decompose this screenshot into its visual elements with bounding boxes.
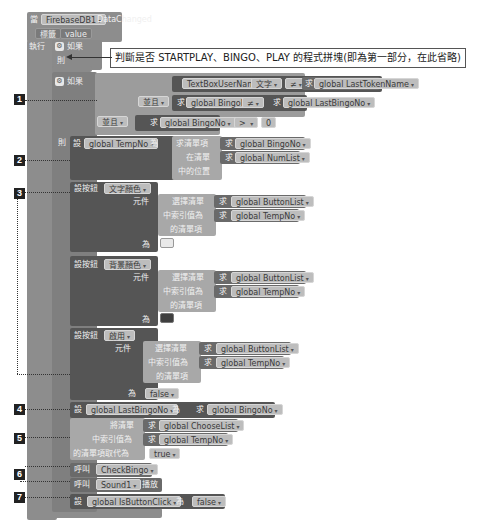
- select-list-label: 選擇清單: [172, 196, 204, 207]
- chevron-down-icon: ▾: [306, 275, 309, 282]
- get-label: 求: [219, 286, 227, 297]
- var-dropdown[interactable]: global ButtonList▾: [231, 196, 314, 207]
- op-dropdown[interactable]: > ▾: [234, 117, 258, 128]
- var-dropdown[interactable]: global LastBingoNo▾: [86, 404, 178, 415]
- leader-line: [20, 481, 70, 482]
- component-label: 元件: [133, 272, 149, 283]
- select-list-label: 選擇清單: [172, 272, 204, 283]
- chevron-down-icon: ▾: [225, 437, 228, 444]
- leader-line: [25, 466, 70, 467]
- chevron-down-icon: ▾: [411, 81, 414, 88]
- get-label: 求: [204, 343, 212, 354]
- prop-dropdown[interactable]: 文字顏色▾: [104, 183, 151, 194]
- var-dropdown[interactable]: global NumList▾: [235, 152, 310, 163]
- index-of-label: 求清單項: [176, 138, 208, 149]
- var-dropdown[interactable]: global TempNo▾: [216, 357, 290, 368]
- false-dropdown[interactable]: false▾: [192, 496, 226, 507]
- get-label: 求: [219, 196, 227, 207]
- method-label: 播放: [142, 479, 158, 490]
- marker-3: 3: [14, 188, 25, 199]
- get-label: 求: [225, 152, 233, 163]
- false-dropdown[interactable]: false▾: [145, 388, 179, 399]
- leader-line: [25, 160, 70, 161]
- var-dropdown[interactable]: global ButtonList▾: [216, 343, 299, 354]
- prop-dropdown[interactable]: 背景顏色▾: [104, 259, 151, 270]
- chevron-down-icon: ▾: [302, 155, 305, 162]
- sound-dropdown[interactable]: Sound1▾: [96, 479, 141, 490]
- event-when-label: 當: [30, 14, 38, 25]
- marker-5: 5: [14, 433, 25, 444]
- list-item-label: 的清單項: [156, 371, 188, 382]
- bracket-line: [17, 199, 18, 374]
- get-label: 求: [196, 404, 204, 415]
- chevron-down-icon: ▾: [171, 391, 174, 398]
- true-dropdown[interactable]: true▾: [149, 448, 180, 459]
- prop-dropdown[interactable]: 文字▾: [251, 78, 282, 89]
- prop-dropdown[interactable]: 啟用▾: [104, 330, 135, 341]
- event-name: DataChanged: [97, 14, 152, 25]
- var-dropdown[interactable]: global ButtonList▾: [231, 272, 314, 283]
- leader-line: [25, 497, 70, 498]
- leader-line: [25, 437, 70, 438]
- gear-icon[interactable]: ⚙: [55, 42, 64, 51]
- var-dropdown[interactable]: global BingoNo▾: [207, 404, 283, 415]
- chevron-down-icon: ▾: [150, 467, 153, 474]
- call-label: 呼叫: [74, 479, 90, 490]
- if1-label: 如果: [67, 41, 83, 52]
- if1-then: 則: [57, 55, 65, 66]
- leader-line: [25, 409, 70, 410]
- get-label: 求: [177, 97, 185, 108]
- param-tag[interactable]: 標籤: [35, 28, 61, 39]
- and-dropdown-2[interactable]: 並且▾: [97, 116, 128, 127]
- get-label: 求: [305, 78, 313, 89]
- var-dropdown[interactable]: global BingoNo▾: [235, 138, 311, 149]
- index-label: 中索引值為: [163, 286, 203, 297]
- var-dropdown[interactable]: global LastTokenName▾: [314, 78, 419, 89]
- leader-line: [25, 100, 97, 101]
- chevron-down-icon: ▾: [291, 346, 294, 353]
- and-dropdown-1[interactable]: 並且▾: [138, 96, 169, 107]
- index-label: 中索引值為: [163, 210, 203, 221]
- component-label: 元件: [115, 343, 131, 354]
- var-dropdown[interactable]: global TempNo▾: [159, 434, 233, 445]
- var-dropdown[interactable]: global IsButtonClick▾: [87, 496, 181, 507]
- chevron-down-icon: ▾: [274, 81, 277, 88]
- var-dropdown[interactable]: global TempNo▾: [84, 138, 158, 149]
- get-label: 求: [219, 272, 227, 283]
- set-label: 設: [74, 404, 82, 415]
- chevron-down-icon: ▾: [306, 199, 309, 206]
- op-dropdown[interactable]: ≠▾: [242, 97, 264, 108]
- chevron-down-icon: ▾: [297, 289, 300, 296]
- var-dropdown[interactable]: global LastBingoNo▾: [283, 97, 375, 108]
- marker-1: 1: [14, 94, 25, 105]
- set-button-label: 設按鈕: [74, 259, 98, 270]
- var-dropdown[interactable]: global TempNo▾: [231, 210, 305, 221]
- bracket-line: [17, 374, 70, 375]
- set-button-label: 設按鈕: [74, 183, 98, 194]
- get-label: 求: [225, 138, 233, 149]
- list-item-label: 的清單項: [170, 224, 202, 235]
- color-swatch-white[interactable]: [160, 238, 174, 248]
- chevron-down-icon: ▾: [297, 213, 300, 220]
- gear-icon[interactable]: ⚙: [55, 77, 64, 86]
- number-value[interactable]: 0: [261, 117, 276, 128]
- call-label: 呼叫: [74, 464, 90, 475]
- chevron-down-icon: ▾: [256, 100, 259, 107]
- index-label: 中索引值為: [92, 434, 132, 445]
- var-dropdown[interactable]: global ChooseList▾: [159, 420, 244, 431]
- var-dropdown[interactable]: global BingoNo▾: [160, 117, 236, 128]
- to-label: 為: [172, 404, 180, 415]
- to-label: 為: [176, 496, 184, 507]
- if2-label: 如果: [67, 76, 83, 87]
- param-value[interactable]: value: [60, 28, 92, 39]
- set-button-label: 設按鈕: [74, 330, 98, 341]
- component-label: 元件: [133, 196, 149, 207]
- color-swatch-dark[interactable]: [160, 313, 174, 323]
- annotation-callout: 判斷是否 STARTPLAY、BINGO、PLAY 的程式拼塊(即為第一部分，在…: [110, 48, 466, 68]
- var-dropdown[interactable]: global TempNo▾: [231, 286, 305, 297]
- to-label: 為: [150, 138, 158, 149]
- chevron-down-icon: ▾: [127, 333, 130, 340]
- chevron-down-icon: ▾: [236, 423, 239, 430]
- marker-6: 6: [14, 469, 25, 480]
- proc-dropdown[interactable]: CheckBingo▾: [96, 464, 158, 475]
